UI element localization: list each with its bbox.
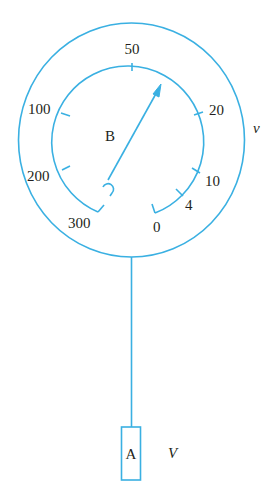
scale-label-300: 300 [68,215,91,231]
scale-label-50: 50 [125,41,140,57]
tick-4 [176,189,183,196]
scale-label-200: 200 [27,168,50,184]
tick-0 [152,204,155,213]
scale-label-10: 10 [205,173,220,189]
scale-label-20: 20 [209,102,224,118]
needle [108,90,158,180]
scale-label-0: 0 [153,219,161,235]
needle-arrowhead-icon [153,84,161,97]
scale-label-100: 100 [28,101,51,117]
weight-label: A [126,446,137,462]
tick-300 [98,205,104,212]
dial-pendulum-diagram: 50 20 10 4 0 100 200 300 B v A V [0,0,269,504]
outer-ring-label: v [253,120,260,136]
tick-200 [62,166,70,170]
needle-label: B [105,128,115,144]
scale-arc [52,66,204,213]
weight-side-label: V [168,445,179,461]
scale-label-4: 4 [185,197,193,213]
needle-pivot-hook [103,184,114,196]
tick-100 [61,113,70,116]
